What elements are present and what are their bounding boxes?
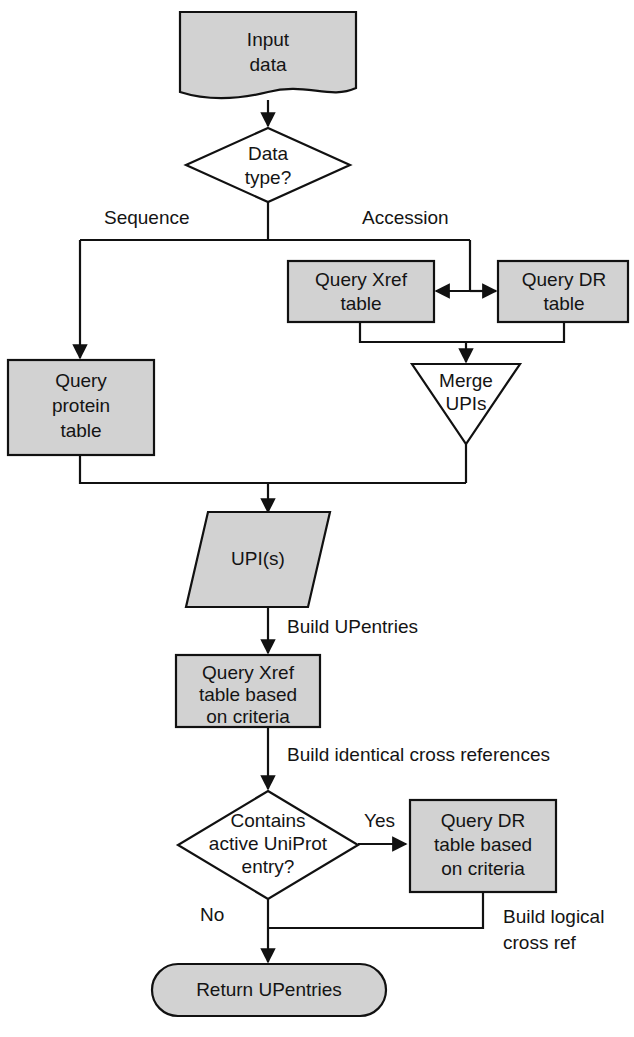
node-upis[interactable]: UPI(s): [186, 512, 330, 607]
contains-active-uniprot-label-line1: Contains: [231, 810, 306, 831]
edge-label-build-upentries: Build UPentries: [287, 616, 418, 637]
input-data-label-line1: Input: [247, 29, 290, 50]
flowchart-canvas: Input data Data type? Sequence Accession…: [0, 0, 634, 1037]
query-xref-criteria-label-line1: Query Xref: [202, 662, 295, 683]
connector-xref-to-merge: [360, 322, 466, 342]
merge-upis-label-line2: UPIs: [445, 393, 486, 414]
data-type-diamond-shape: [186, 128, 350, 202]
edge-label-sequence: Sequence: [104, 207, 190, 228]
data-type-label-line1: Data: [248, 143, 289, 164]
query-xref-table-label-line2: table: [340, 293, 381, 314]
query-xref-criteria-label-line2: table based: [199, 684, 297, 705]
node-merge-upis[interactable]: Merge UPIs: [412, 364, 520, 444]
query-protein-table-label-line1: Query: [55, 370, 107, 391]
query-protein-table-label-line3: table: [60, 420, 101, 441]
node-contains-active-uniprot-decision[interactable]: Contains active UniProt entry?: [178, 791, 358, 899]
edge-label-yes: Yes: [364, 810, 395, 831]
query-protein-table-label-line2: protein: [52, 395, 110, 416]
return-upentries-label: Return UPentries: [196, 979, 342, 1000]
edge-label-build-logical-line1: Build logical: [503, 906, 604, 927]
connector-drcriteria-to-return-rail: [268, 892, 483, 928]
query-xref-table-label-line1: Query Xref: [315, 269, 408, 290]
node-data-type-decision[interactable]: Data type?: [186, 128, 350, 202]
node-query-dr-criteria[interactable]: Query DR table based on criteria: [410, 800, 556, 892]
query-dr-criteria-label-line3: on criteria: [441, 858, 525, 879]
data-type-label-line2: type?: [245, 167, 291, 188]
query-dr-table-label-line2: table: [543, 293, 584, 314]
input-data-label-line2: data: [250, 54, 287, 75]
node-query-dr-table[interactable]: Query DR table: [498, 261, 628, 322]
node-query-protein-table[interactable]: Query protein table: [8, 360, 154, 455]
edge-label-build-logical-line2: cross ref: [503, 932, 577, 953]
merge-upis-label-line1: Merge: [439, 370, 493, 391]
edge-label-no: No: [200, 904, 224, 925]
node-input-data[interactable]: Input data: [180, 12, 356, 98]
edge-label-build-identical-cross-references: Build identical cross references: [287, 744, 550, 765]
connector-dr-to-merge: [466, 322, 564, 342]
query-dr-table-label-line1: Query DR: [522, 269, 606, 290]
query-dr-criteria-label-line1: Query DR: [441, 810, 525, 831]
connector-protein-to-rail: [80, 455, 466, 483]
query-dr-criteria-label-line2: table based: [434, 834, 532, 855]
contains-active-uniprot-label-line2: active UniProt: [209, 833, 328, 854]
upis-label: UPI(s): [231, 548, 285, 569]
query-xref-criteria-label-line3: on criteria: [206, 706, 290, 727]
node-query-xref-table[interactable]: Query Xref table: [288, 261, 434, 322]
node-return-upentries[interactable]: Return UPentries: [152, 964, 386, 1016]
flowchart-svg: Input data Data type? Sequence Accession…: [0, 0, 634, 1037]
node-query-xref-criteria[interactable]: Query Xref table based on criteria: [176, 655, 320, 727]
contains-active-uniprot-label-line3: entry?: [242, 856, 295, 877]
edge-label-accession: Accession: [362, 207, 449, 228]
